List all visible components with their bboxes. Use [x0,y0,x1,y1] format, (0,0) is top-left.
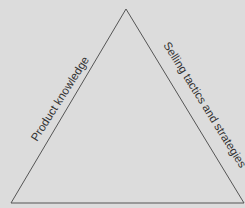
triangle-diagram: Product knowledge Selling tactics and st… [0,0,245,208]
right-side-label: Selling tactics and strategies [161,40,245,170]
left-side-label: Product knowledge [29,54,92,143]
